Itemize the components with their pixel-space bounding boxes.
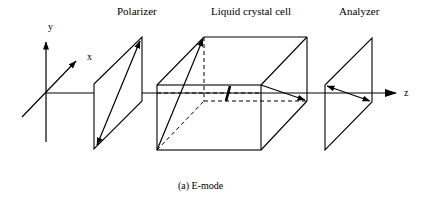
lc-cell-label: Liquid crystal cell (211, 5, 291, 17)
z-axis-label: z (404, 88, 408, 98)
polarizer-label: Polarizer (117, 5, 157, 17)
x-axis-label: x (87, 52, 92, 62)
y-axis-label: y (48, 22, 53, 32)
coordinate-axes (22, 42, 76, 142)
cell-front-face (157, 85, 261, 150)
figure-caption: (a) E-mode (178, 180, 223, 192)
x-axis (22, 61, 76, 117)
e-mode-diagram: y x z Polarizer Liquid crystal cell Anal… (0, 0, 425, 206)
analyzer-label: Analyzer (339, 5, 379, 17)
analyzer-plate (325, 38, 372, 150)
polarizer-plate (94, 37, 142, 149)
input-polarization-arrow (157, 39, 203, 150)
diagram-canvas (0, 0, 425, 206)
